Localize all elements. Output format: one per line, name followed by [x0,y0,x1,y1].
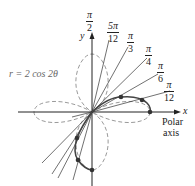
point-theta-0 [148,110,153,115]
label-pi-over-2: π 2 [86,10,93,33]
point-theta-pi-3 [75,136,80,141]
polar-rose-diagram: π 2 5π 12 π 3 π 4 π 6 π 12 y x Polar axi… [0,0,195,186]
label-pi-over-12: π 12 [164,80,174,103]
polar-axis-label: Polar axis [162,117,183,138]
y-axis-arrowhead [90,32,95,39]
x-axis-arrowhead [174,110,181,115]
point-theta-pi-12 [140,98,145,103]
label-5pi-over-12: 5π 12 [107,21,119,44]
x-axis-label: x [183,105,187,116]
equation-label: r = 2 cos 2θ [9,68,58,79]
label-pi-over-6: π 6 [157,61,164,84]
y-axis-label: y [80,30,84,41]
point-theta-pi-2 [90,168,95,173]
point-theta-5pi-12 [76,158,81,163]
label-pi-over-3: π 3 [127,31,134,54]
label-pi-over-4: π 4 [145,44,152,67]
point-theta-pi-6 [119,95,124,100]
